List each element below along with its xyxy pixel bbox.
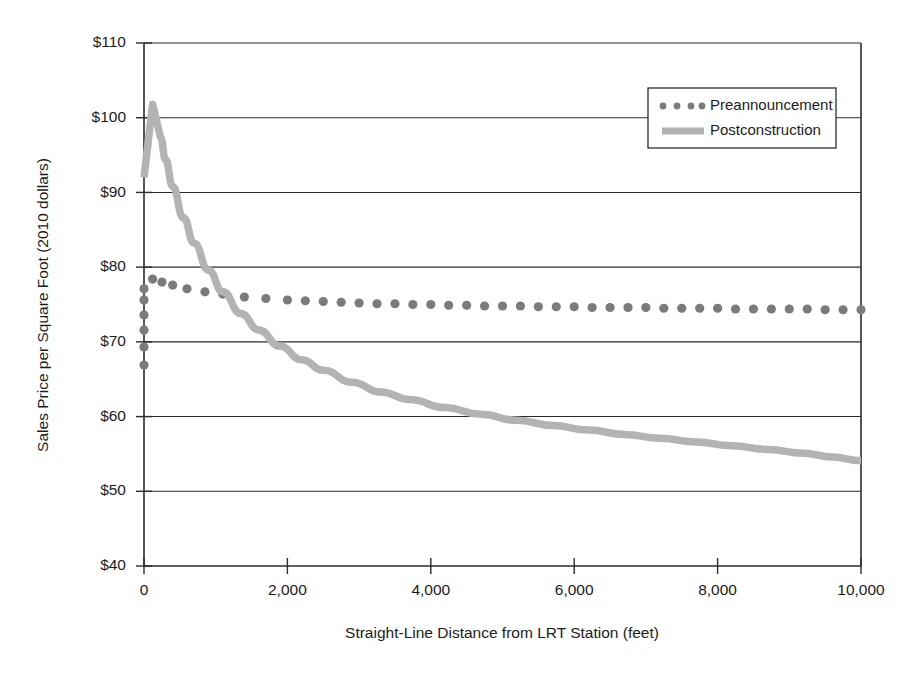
data-point	[390, 299, 399, 308]
data-point	[168, 280, 177, 289]
data-point	[516, 301, 525, 310]
data-point	[408, 300, 417, 309]
x-tick-label: 10,000	[837, 581, 885, 598]
x-tick-label: 4,000	[411, 581, 450, 598]
data-point	[570, 302, 579, 311]
legend-label-postconstruction: Postconstruction	[710, 121, 821, 138]
x-axis-title: Straight-Line Distance from LRT Station …	[345, 624, 659, 641]
legend-dot	[688, 103, 695, 110]
data-point	[641, 303, 650, 312]
y-tick-label: $70	[100, 332, 126, 349]
data-series-group	[139, 104, 865, 460]
series-postconstruction	[144, 104, 861, 460]
data-point	[749, 304, 758, 313]
data-point	[803, 304, 812, 313]
data-point	[767, 304, 776, 313]
data-point	[695, 304, 704, 313]
legend-label-preannouncement: Preannouncement	[710, 96, 833, 113]
x-tick-label: 0	[140, 581, 149, 598]
x-tick-labels-group: 02,0004,0006,0008,00010,000	[140, 581, 885, 598]
data-point	[534, 302, 543, 311]
data-point	[731, 304, 740, 313]
y-tick-labels-group: $40$50$60$70$80$90$100$110	[92, 33, 127, 573]
x-tick-label: 6,000	[555, 581, 594, 598]
y-tick-label: $40	[100, 556, 126, 573]
data-point	[139, 284, 148, 293]
y-axis-title: Sales Price per Square Foot (2010 dollar…	[34, 158, 51, 452]
data-point	[480, 301, 489, 310]
data-point	[283, 295, 292, 304]
data-point	[588, 303, 597, 312]
x-tick-label: 8,000	[698, 581, 737, 598]
data-point	[261, 294, 270, 303]
data-point	[337, 298, 346, 307]
data-point	[838, 305, 847, 314]
data-point	[785, 304, 794, 313]
data-point	[623, 303, 632, 312]
data-point	[677, 304, 686, 313]
data-curve	[144, 104, 861, 460]
data-point	[372, 299, 381, 308]
legend-dot	[674, 103, 681, 110]
data-point	[498, 301, 507, 310]
data-point	[552, 302, 561, 311]
data-point	[240, 292, 249, 301]
data-point	[426, 300, 435, 309]
y-tick-label: $100	[92, 108, 127, 125]
chart-figure: $40$50$60$70$80$90$100$110 02,0004,0006,…	[0, 0, 911, 680]
y-tick-label: $60	[100, 407, 126, 424]
data-point	[148, 275, 157, 284]
x-tick-label: 2,000	[268, 581, 307, 598]
data-point	[444, 301, 453, 310]
y-tick-label: $50	[100, 481, 126, 498]
data-point	[139, 360, 148, 369]
y-tick-label: $110	[93, 33, 127, 50]
data-point	[856, 305, 865, 314]
data-point	[139, 295, 148, 304]
data-point	[139, 342, 148, 351]
data-point	[605, 303, 614, 312]
data-point	[821, 305, 830, 314]
chart-legend: Preannouncement Postconstruction	[648, 88, 836, 148]
data-point	[182, 284, 191, 293]
chart-canvas: $40$50$60$70$80$90$100$110 02,0004,0006,…	[0, 0, 911, 680]
legend-dot	[660, 103, 667, 110]
legend-dot	[699, 103, 706, 110]
data-point	[713, 304, 722, 313]
data-point	[139, 325, 148, 334]
data-point	[355, 298, 364, 307]
data-point	[139, 310, 148, 319]
data-point	[659, 304, 668, 313]
data-point	[319, 297, 328, 306]
data-point	[200, 287, 209, 296]
y-tick-label: $90	[100, 183, 126, 200]
data-point	[157, 277, 166, 286]
y-tick-label: $80	[100, 257, 126, 274]
data-point	[301, 296, 310, 305]
data-point	[462, 301, 471, 310]
